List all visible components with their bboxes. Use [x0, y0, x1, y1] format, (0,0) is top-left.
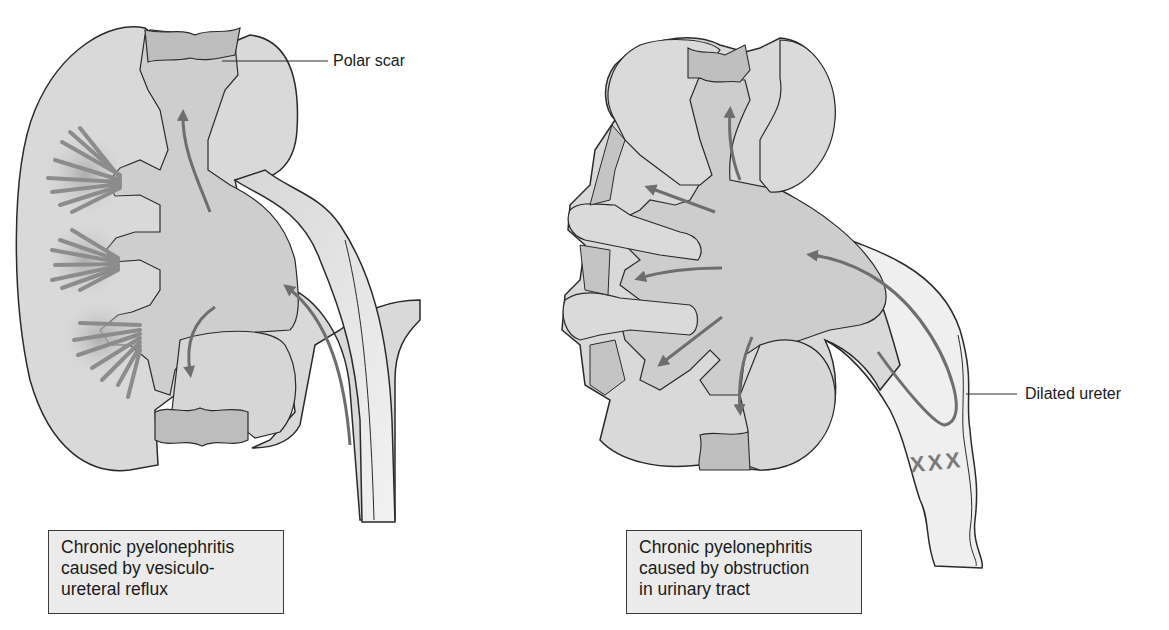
polar-scar-top	[145, 28, 240, 62]
left-caption-line-1: Chronic pyelonephritis	[61, 537, 271, 558]
papillary-fan-middle	[43, 218, 127, 302]
polar-scar-label: Polar scar	[333, 52, 405, 70]
dilated-ureter-label: Dilated ureter	[1025, 385, 1121, 403]
left-caption: Chronic pyelonephritis caused by vesicul…	[48, 530, 284, 614]
right-caption-line-3: in urinary tract	[639, 579, 849, 600]
right-caption: Chronic pyelonephritis caused by obstruc…	[626, 530, 862, 614]
left-kidney	[16, 27, 420, 522]
right-kidney: XXX	[562, 38, 982, 568]
left-caption-line-2: caused by vesiculo-	[61, 558, 271, 579]
right-caption-line-2: caused by obstruction	[639, 558, 849, 579]
left-caption-line-3: ureteral reflux	[61, 579, 271, 600]
right-caption-line-1: Chronic pyelonephritis	[639, 537, 849, 558]
polar-scar-bottom	[155, 408, 248, 446]
